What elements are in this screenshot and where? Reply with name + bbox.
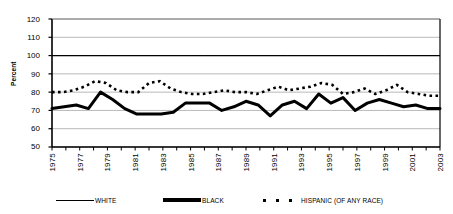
legend-swatch-black-icon — [163, 198, 201, 202]
x-tick-2003: 2003 — [436, 153, 445, 172]
chart-container: Percent 120 110 100 90 80 70 60 50 19751… — [0, 0, 453, 214]
x-tick-1979: 1979 — [103, 153, 112, 172]
x-tick-1995: 1995 — [325, 153, 334, 172]
x-tick-1993: 1993 — [297, 153, 306, 172]
x-tick-2001: 2001 — [408, 153, 417, 172]
plot-frame — [52, 19, 440, 147]
plot-area — [0, 0, 453, 214]
gridlines — [52, 19, 440, 147]
legend-label-white: WHITE — [95, 197, 116, 204]
series-hispanic — [52, 81, 440, 96]
legend-item-white: WHITE — [56, 196, 116, 204]
legend-item-black: BLACK — [163, 196, 224, 204]
x-tick-1983: 1983 — [159, 153, 168, 172]
legend-label-hispanic: HISPANIC (OF ANY RACE) — [301, 197, 383, 204]
x-tick-1985: 1985 — [187, 153, 196, 172]
legend-swatch-white-icon — [56, 200, 94, 201]
series-black — [52, 92, 440, 116]
x-tick-1997: 1997 — [353, 153, 362, 172]
x-tick-1987: 1987 — [214, 153, 223, 172]
x-tick-1975: 1975 — [48, 153, 57, 172]
x-tick-1991: 1991 — [270, 153, 279, 172]
legend-swatch-hispanic-icon — [262, 198, 300, 202]
x-tick-1989: 1989 — [242, 153, 251, 172]
legend-label-black: BLACK — [202, 197, 224, 204]
x-tick-1981: 1981 — [131, 153, 140, 172]
x-tick-1999: 1999 — [381, 153, 390, 172]
x-tick-1977: 1977 — [76, 153, 85, 172]
legend-item-hispanic: HISPANIC (OF ANY RACE) — [262, 196, 383, 204]
